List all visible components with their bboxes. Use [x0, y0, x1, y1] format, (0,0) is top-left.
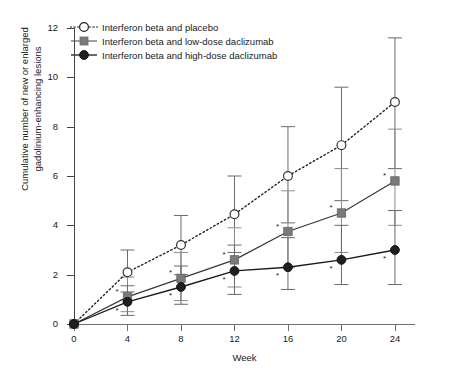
figure-container: Interferon beta and placebo Interferon b…: [0, 0, 457, 374]
data-point-placebo: [123, 268, 132, 277]
significance-asterisk: *: [222, 276, 225, 284]
error-bars-placebo: [120, 38, 401, 292]
significance-asterisk: *: [329, 265, 332, 273]
significance-asterisk: *: [276, 223, 279, 231]
data-point-high-dose: [230, 267, 239, 276]
data-point-placebo: [177, 241, 186, 250]
data-point-high-dose: [177, 283, 186, 292]
significance-asterisk: *: [169, 292, 172, 300]
data-point-high-dose: [337, 255, 346, 264]
significance-asterisk: *: [383, 172, 386, 180]
data-point-low-dose: [337, 209, 345, 217]
data-point-high-dose: [70, 320, 79, 329]
significance-asterisk: *: [222, 251, 225, 259]
significance-asterisk: *: [329, 204, 332, 212]
data-point-high-dose: [123, 297, 132, 306]
data-point-placebo: [230, 210, 239, 219]
significance-asterisk: *: [115, 307, 118, 315]
data-point-low-dose: [391, 177, 399, 185]
significance-asterisk: *: [276, 272, 279, 280]
significance-asterisk: *: [115, 288, 118, 296]
data-point-placebo: [391, 98, 400, 107]
data-point-placebo: [284, 172, 293, 181]
significance-asterisk: *: [169, 269, 172, 277]
data-point-placebo: [337, 141, 346, 150]
data-point-low-dose: [284, 227, 292, 235]
data-series-layer: [0, 0, 457, 374]
error-bars-high-dose: [120, 211, 401, 316]
data-point-low-dose: [177, 274, 185, 282]
data-point-low-dose: [230, 256, 238, 264]
data-point-high-dose: [284, 263, 293, 272]
significance-asterisk: *: [383, 255, 386, 263]
data-point-high-dose: [391, 246, 400, 255]
